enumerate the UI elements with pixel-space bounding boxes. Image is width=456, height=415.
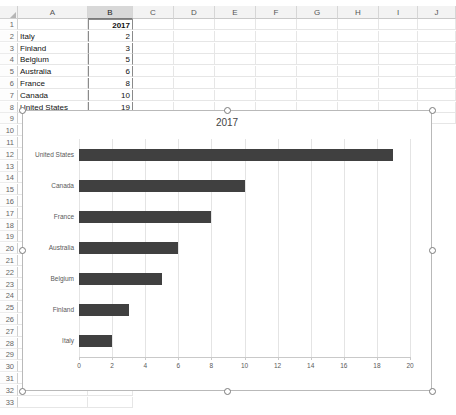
column-header-b[interactable]: B bbox=[88, 6, 133, 19]
row-header-28[interactable]: 28 bbox=[0, 338, 18, 349]
cell-A33[interactable] bbox=[18, 397, 88, 408]
cell-G3[interactable] bbox=[297, 43, 338, 54]
cell-J6[interactable] bbox=[418, 78, 456, 89]
cell-F4[interactable] bbox=[256, 54, 297, 65]
row-header-9[interactable]: 9 bbox=[0, 113, 18, 124]
column-header-j[interactable]: J bbox=[418, 6, 456, 19]
column-header-g[interactable]: G bbox=[297, 6, 338, 19]
cell-J7[interactable] bbox=[418, 90, 456, 101]
cell-C7[interactable] bbox=[133, 90, 174, 101]
resize-handle-bottom-center[interactable] bbox=[224, 388, 231, 395]
cell-F1[interactable] bbox=[256, 19, 297, 30]
resize-handle-middle-left[interactable] bbox=[19, 247, 26, 254]
cell-I6[interactable] bbox=[379, 78, 418, 89]
cell-E7[interactable] bbox=[215, 90, 256, 101]
cell-H5[interactable] bbox=[338, 66, 379, 77]
cell-B3[interactable]: 3 bbox=[88, 43, 133, 54]
cell-C2[interactable] bbox=[133, 31, 174, 42]
row-header-22[interactable]: 22 bbox=[0, 267, 18, 278]
cell-A4[interactable]: Belgium bbox=[18, 54, 88, 65]
bar-finland[interactable] bbox=[79, 304, 129, 316]
column-header-d[interactable]: D bbox=[174, 6, 215, 19]
cell-B7[interactable]: 10 bbox=[88, 90, 133, 101]
resize-handle-middle-right[interactable] bbox=[429, 247, 436, 254]
cell-E3[interactable] bbox=[215, 43, 256, 54]
cell-J3[interactable] bbox=[418, 43, 456, 54]
cell-F3[interactable] bbox=[256, 43, 297, 54]
row-header-32[interactable]: 32 bbox=[0, 385, 18, 396]
cell-I3[interactable] bbox=[379, 43, 418, 54]
cell-I7[interactable] bbox=[379, 90, 418, 101]
cell-I4[interactable] bbox=[379, 54, 418, 65]
cell-H3[interactable] bbox=[338, 43, 379, 54]
row-header-5[interactable]: 5 bbox=[0, 66, 18, 77]
row-header-15[interactable]: 15 bbox=[0, 184, 18, 195]
cell-D3[interactable] bbox=[174, 43, 215, 54]
row-header-31[interactable]: 31 bbox=[0, 373, 18, 384]
cell-A7[interactable]: Canada bbox=[18, 90, 88, 101]
cell-H7[interactable] bbox=[338, 90, 379, 101]
row-header-14[interactable]: 14 bbox=[0, 172, 18, 183]
row-header-16[interactable]: 16 bbox=[0, 196, 18, 207]
cell-I1[interactable] bbox=[379, 19, 418, 30]
row-header-25[interactable]: 25 bbox=[0, 302, 18, 313]
cell-A2[interactable]: Italy bbox=[18, 31, 88, 42]
column-header-i[interactable]: I bbox=[379, 6, 418, 19]
cell-B4[interactable]: 5 bbox=[88, 54, 133, 65]
cell-E1[interactable] bbox=[215, 19, 256, 30]
row-header-29[interactable]: 29 bbox=[0, 349, 18, 360]
bar-australia[interactable] bbox=[79, 242, 178, 254]
cell-I2[interactable] bbox=[379, 31, 418, 42]
cell-G5[interactable] bbox=[297, 66, 338, 77]
cell-E2[interactable] bbox=[215, 31, 256, 42]
cell-F2[interactable] bbox=[256, 31, 297, 42]
bar-canada[interactable] bbox=[79, 180, 245, 192]
bar-belgium[interactable] bbox=[79, 273, 162, 285]
select-all-corner[interactable] bbox=[0, 6, 18, 19]
row-header-11[interactable]: 11 bbox=[0, 137, 18, 148]
cell-F5[interactable] bbox=[256, 66, 297, 77]
cell-C5[interactable] bbox=[133, 66, 174, 77]
column-header-e[interactable]: E bbox=[215, 6, 256, 19]
cell-D2[interactable] bbox=[174, 31, 215, 42]
cell-C4[interactable] bbox=[133, 54, 174, 65]
resize-handle-bottom-right[interactable] bbox=[429, 388, 436, 395]
cell-A6[interactable]: France bbox=[18, 78, 88, 89]
cell-F7[interactable] bbox=[256, 90, 297, 101]
cell-B1[interactable]: 2017 bbox=[88, 19, 133, 30]
row-header-10[interactable]: 10 bbox=[0, 125, 18, 136]
cell-C1[interactable] bbox=[133, 19, 174, 30]
cell-F6[interactable] bbox=[256, 78, 297, 89]
cell-B6[interactable]: 8 bbox=[88, 78, 133, 89]
row-header-23[interactable]: 23 bbox=[0, 279, 18, 290]
cell-J1[interactable] bbox=[418, 19, 456, 30]
cell-H1[interactable] bbox=[338, 19, 379, 30]
row-header-7[interactable]: 7 bbox=[0, 90, 18, 101]
cell-J5[interactable] bbox=[418, 66, 456, 77]
row-header-3[interactable]: 3 bbox=[0, 43, 18, 54]
cell-B5[interactable]: 6 bbox=[88, 66, 133, 77]
cell-D4[interactable] bbox=[174, 54, 215, 65]
row-header-2[interactable]: 2 bbox=[0, 31, 18, 42]
column-header-h[interactable]: H bbox=[338, 6, 379, 19]
row-header-17[interactable]: 17 bbox=[0, 208, 18, 219]
cell-B33[interactable] bbox=[88, 397, 133, 408]
row-header-13[interactable]: 13 bbox=[0, 161, 18, 172]
column-header-c[interactable]: C bbox=[133, 6, 174, 19]
cell-C6[interactable] bbox=[133, 78, 174, 89]
bar-united-states[interactable] bbox=[79, 149, 393, 161]
cell-A1[interactable] bbox=[18, 19, 88, 30]
cell-A3[interactable]: Finland bbox=[18, 43, 88, 54]
row-header-30[interactable]: 30 bbox=[0, 361, 18, 372]
cell-H6[interactable] bbox=[338, 78, 379, 89]
cell-J2[interactable] bbox=[418, 31, 456, 42]
resize-handle-top-center[interactable] bbox=[224, 107, 231, 114]
cell-J4[interactable] bbox=[418, 54, 456, 65]
row-header-26[interactable]: 26 bbox=[0, 314, 18, 325]
row-header-33[interactable]: 33 bbox=[0, 397, 18, 408]
cell-G4[interactable] bbox=[297, 54, 338, 65]
cell-A5[interactable]: Australia bbox=[18, 66, 88, 77]
row-header-19[interactable]: 19 bbox=[0, 231, 18, 242]
cell-E4[interactable] bbox=[215, 54, 256, 65]
cell-D7[interactable] bbox=[174, 90, 215, 101]
